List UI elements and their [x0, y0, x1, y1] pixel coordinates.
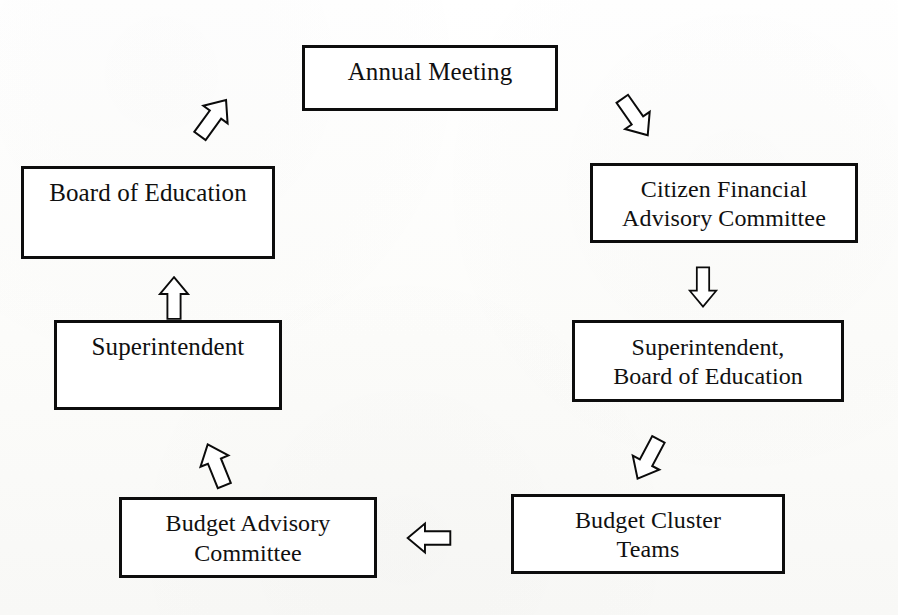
node-label: Annual Meeting: [348, 57, 513, 88]
arrow-up-icon: [191, 435, 241, 494]
node-label: Superintendent: [92, 332, 245, 363]
node-label: Superintendent, Board of Education: [613, 333, 803, 392]
node-label: Citizen Financial Advisory Committee: [622, 175, 826, 234]
arrow-down-right-icon: [607, 87, 664, 147]
node-label: Board of Education: [49, 178, 247, 209]
node-superintendent-board-of-education: Superintendent, Board of Education: [572, 320, 844, 402]
arrow-down-left-icon: [621, 429, 674, 489]
node-board-of-education: Board of Education: [21, 166, 275, 259]
node-budget-advisory-committee: Budget Advisory Committee: [119, 497, 377, 578]
node-annual-meeting: Annual Meeting: [302, 45, 558, 111]
node-label: Budget Advisory Committee: [166, 509, 331, 568]
node-citizen-financial-advisory-committee: Citizen Financial Advisory Committee: [590, 163, 858, 243]
arrow-left-icon: [405, 521, 453, 555]
flowchart-canvas: Annual Meeting Board of Education Citize…: [0, 0, 898, 615]
node-budget-cluster-teams: Budget Cluster Teams: [511, 494, 785, 574]
arrow-up-right-icon: [185, 88, 242, 148]
arrow-down-icon: [688, 262, 718, 312]
arrow-up-icon: [158, 274, 190, 322]
node-superintendent: Superintendent: [54, 320, 282, 410]
node-label: Budget Cluster Teams: [575, 506, 721, 565]
